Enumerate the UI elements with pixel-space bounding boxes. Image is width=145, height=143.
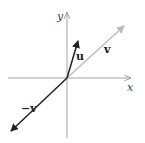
vector-neg-v: [11, 78, 67, 131]
u-label: u: [76, 50, 84, 63]
vector-diagram: y x u v −v: [0, 0, 145, 143]
neg-v-label: −v: [21, 102, 37, 115]
x-axis-label: x: [127, 81, 134, 94]
y-axis-label: y: [56, 10, 64, 23]
v-label: v: [103, 43, 111, 56]
